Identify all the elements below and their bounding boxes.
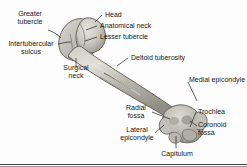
shaft-highlight xyxy=(90,62,140,95)
label-medial-epicondyle: Medial epicondyle xyxy=(189,76,245,84)
label-capitulum: Capitulum xyxy=(156,150,198,158)
label-lesser-tubercle: Lesser tubercle xyxy=(100,33,148,41)
label-deltoid-tuberosity: Deltoid tuberosity xyxy=(131,54,185,62)
leader-medial-epicondyle xyxy=(188,82,197,101)
capitulum-surface xyxy=(169,132,181,143)
label-head: Head xyxy=(105,11,122,19)
label-surgical-neck: Surgical neck xyxy=(55,64,97,80)
bottom-divider-secondary xyxy=(0,166,247,167)
label-coronoid-fossa: Coronoid fossa xyxy=(198,121,226,137)
label-lateral-epicondyle: Lateral epicondyle xyxy=(114,126,160,142)
anatomy-figure: Greater tubercle Head Anatomical neck Le… xyxy=(0,0,247,167)
label-intertubercular-sulcus: Intertubercular sulcus xyxy=(2,40,60,56)
label-radial-fossa: Radial fossa xyxy=(118,104,154,120)
radial-fossa-depression xyxy=(169,117,179,125)
label-anatomical-neck: Anatomical neck xyxy=(100,22,151,30)
label-greater-tubercle: Greater tubercle xyxy=(8,10,52,26)
leader-greater-tubercle xyxy=(48,30,61,38)
bottom-divider xyxy=(0,164,247,165)
leader-head xyxy=(95,15,102,22)
label-trochlea: Trochlea xyxy=(198,108,225,116)
coronoid-fossa-depression xyxy=(182,116,193,125)
leader-deltoid-tuberosity xyxy=(117,58,128,66)
trochlea-surface xyxy=(182,129,196,141)
